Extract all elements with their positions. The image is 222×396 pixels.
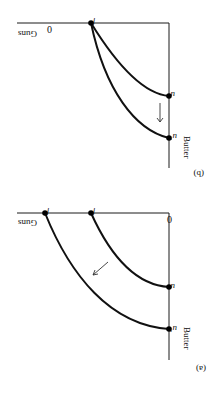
panel-b: 0 Guns f u u′ (b) Butter <box>17 18 204 179</box>
frontier-original <box>91 213 169 287</box>
figure: 0 Guns f u u′ (b) Butter 0 Guns f f′ u <box>0 0 222 396</box>
panel-label: (a) <box>196 364 206 374</box>
point-u-label: u <box>170 282 175 292</box>
origin-label: 0 <box>47 24 52 35</box>
x-axis-label: Guns <box>18 29 37 39</box>
x-axis-label: Guns <box>18 218 37 228</box>
shift-arrow-outward <box>93 262 108 275</box>
point-u-prime-label: u′ <box>170 324 178 334</box>
shift-arrow-down <box>157 103 163 122</box>
frontier-original <box>91 23 169 96</box>
panel-a: 0 Guns f f′ u u′ (a) Butter <box>17 208 206 374</box>
frontier-shifted <box>45 213 169 329</box>
origin-label: 0 <box>167 214 172 225</box>
point-u-label: u <box>170 90 175 100</box>
panel-label: (b) <box>194 169 205 179</box>
y-axis-label: Butter <box>182 327 192 350</box>
y-axis-label: Butter <box>182 136 192 159</box>
point-u-prime-label: u′ <box>170 132 178 142</box>
